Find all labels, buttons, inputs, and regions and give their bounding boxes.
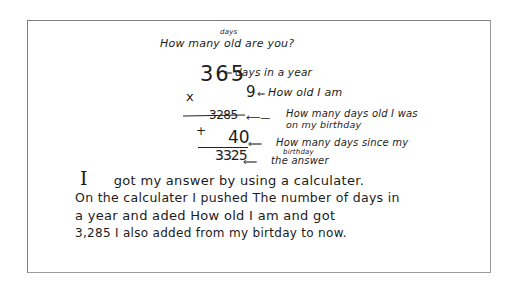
pronoun-i: I [80, 167, 88, 189]
days-since-birthday-number: 40 [228, 127, 250, 147]
arrow-left-icon: ⇐ [257, 88, 265, 99]
age-number: 9 [246, 83, 256, 101]
explanation-line-1: Igot my answer by using a calculater. [80, 167, 364, 189]
arrow-left-icon: ⟸ [243, 156, 257, 167]
title-suffix: old are you? [224, 37, 294, 50]
title-prefix: How many [160, 37, 220, 50]
age-label: How old I am [268, 86, 342, 99]
add-operator: + [196, 124, 206, 138]
explanation-line-2: On the calculater I pushed The number of… [75, 190, 400, 205]
answer-label: the answer [271, 155, 329, 166]
product-number: 3285 [209, 108, 238, 122]
explanation-line-4: 3,285 I also added from my birtday to no… [75, 226, 347, 240]
title-insert-word: days [220, 28, 237, 36]
product-label-line1: How many days old I was [286, 108, 418, 119]
answer-number: 3325 [215, 147, 247, 163]
arrow-long-left-icon: ⟵— [246, 112, 270, 123]
days-in-year-label: days in a year [235, 66, 312, 78]
days-since-label-line1: How many days since my [276, 137, 408, 148]
arrow-left-icon: ⟸ [248, 138, 262, 149]
product-label-line2: on my birthday [286, 119, 361, 130]
document-title: How manyold are you? [160, 37, 294, 50]
arrow-left-icon: ⇐ [224, 67, 232, 78]
explanation-line-3: a year and aded How old I am and got [75, 208, 335, 223]
multiply-operator: x [186, 89, 194, 104]
